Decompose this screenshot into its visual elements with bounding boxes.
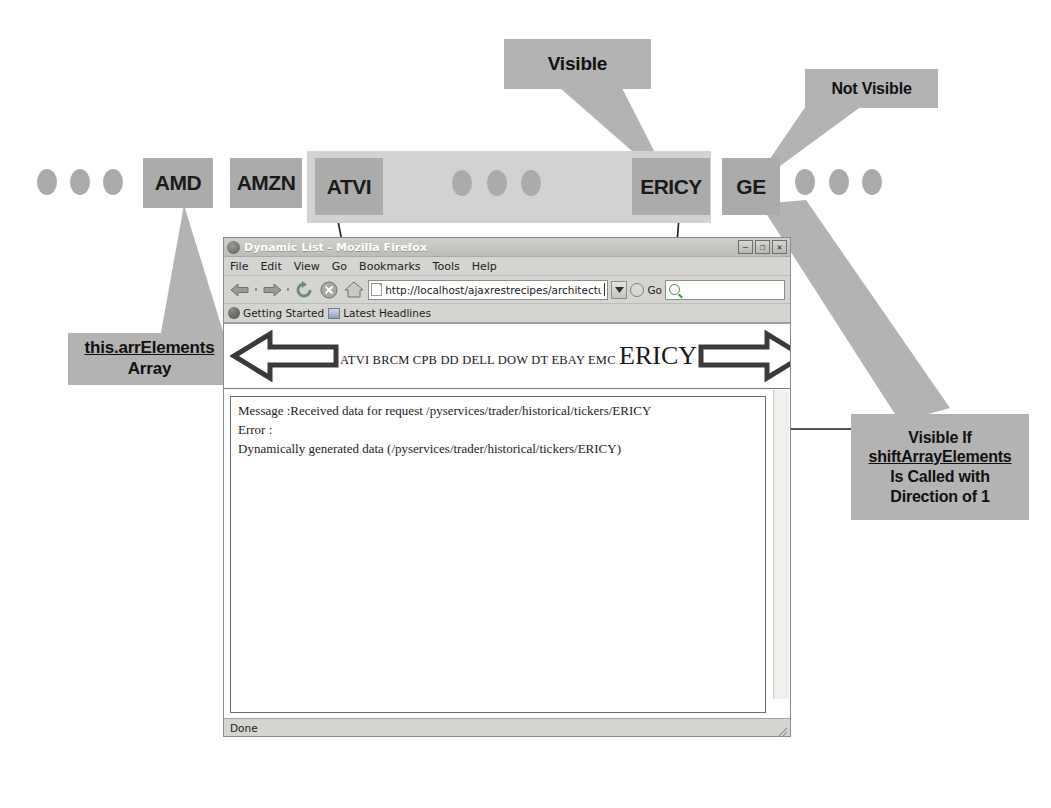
url-bar[interactable]: http://localhost/ajaxrestrecipes/archite… <box>368 280 608 300</box>
log-output-area[interactable]: Message :Received data for request /pyse… <box>230 396 766 713</box>
callout-arrelements-type: Array <box>128 359 171 380</box>
maximize-button[interactable]: ❐ <box>755 240 770 254</box>
ellipsis-dot-right-2 <box>829 169 849 195</box>
window-title: Dynamic List - Mozilla Firefox <box>244 241 427 254</box>
menu-tools[interactable]: Tools <box>433 260 460 273</box>
bookmarks-toolbar: Getting Started Latest Headlines <box>224 304 790 323</box>
search-icon <box>669 284 680 295</box>
vertical-scrollbar[interactable] <box>773 390 789 699</box>
callout-shift-line1: Visible If <box>908 428 972 448</box>
callout-arrelements: this.arrElements Array <box>68 333 231 385</box>
menu-go[interactable]: Go <box>332 260 347 273</box>
bookmark-getting-started[interactable]: Getting Started <box>228 307 324 319</box>
menu-bookmarks[interactable]: Bookmarks <box>359 260 420 273</box>
back-arrow-icon[interactable] <box>229 279 251 301</box>
ellipsis-dot-mid-1 <box>452 170 472 196</box>
resize-grip-icon[interactable] <box>776 722 788 734</box>
url-caret <box>604 283 605 296</box>
url-dropdown-icon[interactable] <box>611 281 627 299</box>
ticker-list: ATVI BRCM CPB DD DELL DOW DT EBAY EMC ER… <box>340 341 697 371</box>
page-content: ATVI BRCM CPB DD DELL DOW DT EBAY EMC ER… <box>224 323 790 718</box>
status-bar: Done <box>224 718 790 736</box>
log-line: Message :Received data for request /pyse… <box>238 402 758 421</box>
bookmark-label: Getting Started <box>243 307 324 319</box>
log-line: Error : <box>238 421 758 440</box>
url-text: http://localhost/ajaxrestrecipes/archite… <box>385 284 601 296</box>
window-titlebar: Dynamic List - Mozilla Firefox – ❐ ✕ <box>224 238 790 257</box>
stop-icon[interactable] <box>318 279 340 301</box>
callout-visible-label: Visible <box>548 52 608 75</box>
callout-not-visible: Not Visible <box>805 69 938 108</box>
go-label: Go <box>647 284 662 296</box>
bookmark-label: Latest Headlines <box>343 307 431 319</box>
search-input[interactable] <box>665 280 785 300</box>
menu-file[interactable]: File <box>230 260 248 273</box>
home-icon[interactable] <box>343 279 365 301</box>
forward-arrow-icon[interactable] <box>261 279 283 301</box>
ticker-atvi[interactable]: ATVI <box>315 158 383 215</box>
minimize-button[interactable]: – <box>738 240 753 254</box>
ellipsis-dot-left-3 <box>103 169 123 195</box>
ellipsis-dot-left-2 <box>70 169 90 195</box>
window-controls: – ❐ ✕ <box>738 240 787 254</box>
menu-bar: File Edit View Go Bookmarks Tools Help <box>224 257 790 276</box>
ticker-ge[interactable]: GE <box>722 158 780 215</box>
ticker-list-small: ATVI BRCM CPB DD DELL DOW DT EBAY EMC <box>340 353 616 367</box>
navigation-toolbar: http://localhost/ajaxrestrecipes/archite… <box>224 276 790 304</box>
shift-left-arrow-icon[interactable] <box>230 330 340 382</box>
ticker-list-highlighted: ERICY <box>619 341 697 370</box>
shift-right-arrow-icon[interactable] <box>697 330 790 382</box>
callout-shiftarrayelements: Visible If shiftArrayElements Is Called … <box>851 414 1029 520</box>
ellipsis-dot-mid-3 <box>521 170 541 196</box>
firefox-icon <box>227 241 240 254</box>
close-button[interactable]: ✕ <box>772 240 787 254</box>
feed-icon <box>328 308 340 319</box>
firefox-window: Dynamic List - Mozilla Firefox – ❐ ✕ Fil… <box>223 237 791 737</box>
ellipsis-dot-mid-2 <box>487 170 507 196</box>
ticker-amzn[interactable]: AMZN <box>230 158 302 208</box>
diagram-canvas: AMD AMZN ATVI ERICY GE Visible Not Visib… <box>0 0 1051 808</box>
reload-icon[interactable] <box>293 279 315 301</box>
ticker-navigation-row: ATVI BRCM CPB DD DELL DOW DT EBAY EMC ER… <box>224 324 790 389</box>
shiftarray-connector <box>782 427 862 431</box>
menu-view[interactable]: View <box>294 260 320 273</box>
ticker-amd[interactable]: AMD <box>143 158 213 208</box>
callout-visible: Visible <box>504 39 651 89</box>
status-text: Done <box>230 722 258 734</box>
menu-edit[interactable]: Edit <box>260 260 281 273</box>
callout-shift-line2: shiftArrayElements <box>868 447 1011 467</box>
go-circle-icon <box>630 283 644 297</box>
callout-not-visible-label: Not Visible <box>831 79 911 99</box>
callout-shift-line3: Is Called with <box>890 467 989 487</box>
toolbar-separator-1 <box>255 288 257 291</box>
toolbar-separator-2 <box>287 288 289 291</box>
ellipsis-dot-right-1 <box>795 169 815 195</box>
log-line: Dynamically generated data (/pyservices/… <box>238 440 758 459</box>
bookmark-latest-headlines[interactable]: Latest Headlines <box>328 307 431 319</box>
callout-shift-line4: Direction of 1 <box>890 487 989 507</box>
callout-arrelements-name: this.arrElements <box>84 338 214 359</box>
ticker-ericy[interactable]: ERICY <box>632 158 710 215</box>
globe-icon <box>228 307 240 319</box>
ellipsis-dot-left-1 <box>37 169 57 195</box>
ellipsis-dot-right-3 <box>862 169 882 195</box>
page-icon <box>371 283 382 296</box>
menu-help[interactable]: Help <box>472 260 497 273</box>
go-button[interactable]: Go <box>630 283 662 297</box>
